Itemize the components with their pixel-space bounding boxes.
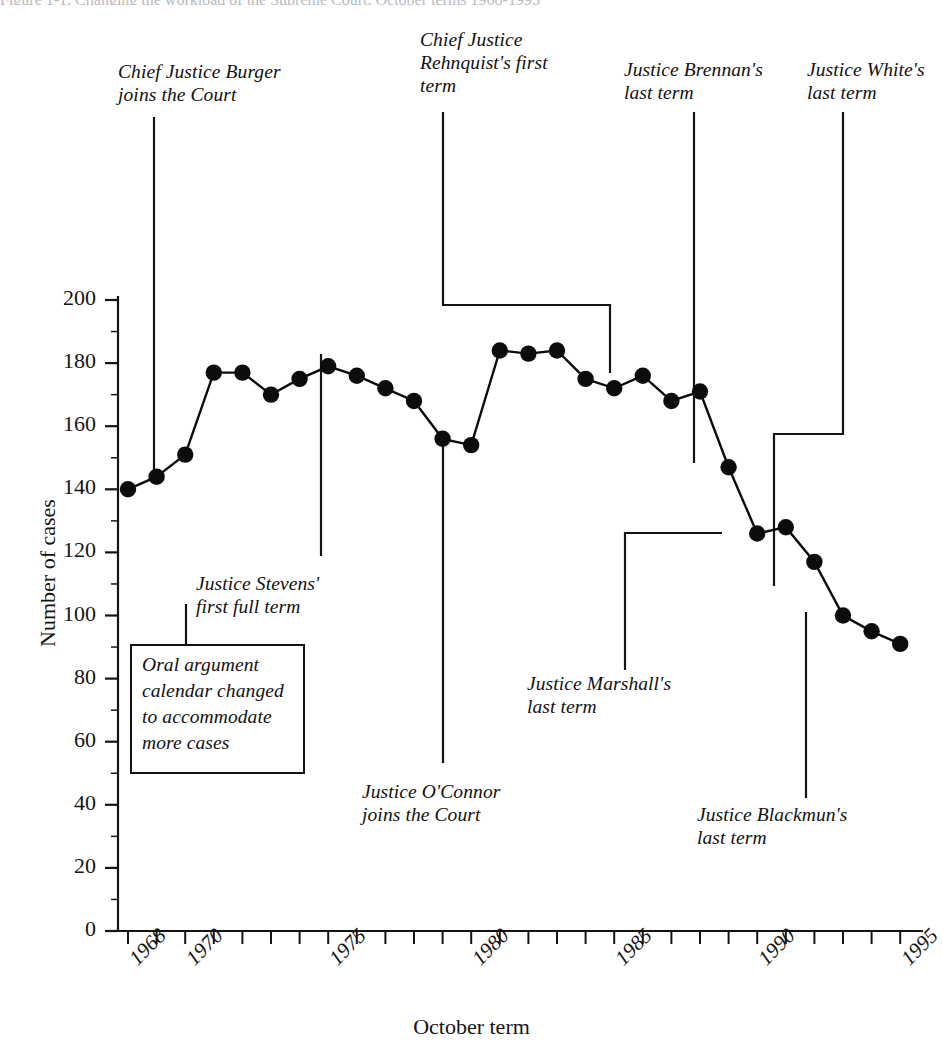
data-point: [577, 371, 593, 387]
leader-rehnquist: [443, 112, 610, 373]
callout-text: Oral argument calendar changed to accomm…: [142, 652, 307, 756]
data-point: [349, 368, 365, 384]
annotation-rehnquist: Chief Justice Rehnquist's first term: [420, 28, 600, 97]
data-point: [406, 393, 422, 409]
data-point: [291, 371, 307, 387]
y-tick-label: 200: [32, 285, 96, 311]
y-tick-label: 40: [32, 790, 96, 816]
y-tick-label: 60: [32, 727, 96, 753]
callout-box-oral-argument: Oral argument calendar changed to accomm…: [130, 644, 305, 774]
data-point: [320, 358, 336, 374]
data-point: [892, 636, 908, 652]
annotation-white: Justice White's last term: [807, 58, 943, 104]
annotation-blackmun: Justice Blackmun's last term: [697, 803, 907, 849]
annotation-oconnor: Justice O'Connor joins the Court: [362, 780, 572, 826]
y-axis-ticks: [105, 300, 118, 931]
data-point: [177, 446, 193, 462]
data-point: [778, 519, 794, 535]
data-point: [434, 431, 450, 447]
data-point: [206, 364, 222, 380]
figure-canvas: Figure 1-1. Changing the workload of the…: [0, 0, 943, 1053]
y-tick-label: 180: [32, 348, 96, 374]
y-tick-label: 0: [32, 916, 96, 942]
data-point: [692, 383, 708, 399]
data-point: [520, 345, 536, 361]
x-axis-title: October term: [0, 1014, 943, 1040]
data-point: [749, 525, 765, 541]
data-point: [606, 380, 622, 396]
y-tick-label: 160: [32, 411, 96, 437]
annotation-stevens: Justice Stevens' first full term: [196, 572, 396, 618]
data-point: [463, 437, 479, 453]
line-chart-svg: [0, 0, 943, 1053]
data-point: [120, 481, 136, 497]
annotation-burger: Chief Justice Burger joins the Court: [118, 60, 328, 106]
data-point: [863, 623, 879, 639]
leader-white: [774, 112, 843, 586]
data-point: [663, 393, 679, 409]
leader-marshall: [625, 533, 722, 670]
annotation-marshall: Justice Marshall's last term: [527, 672, 727, 718]
data-point: [720, 459, 736, 475]
data-point: [263, 386, 279, 402]
data-point: [635, 368, 651, 384]
data-point: [492, 342, 508, 358]
data-point: [549, 342, 565, 358]
data-point: [806, 554, 822, 570]
data-point: [377, 380, 393, 396]
y-tick-label: 20: [32, 853, 96, 879]
annotation-brennan: Justice Brennan's last term: [624, 58, 804, 104]
data-point: [234, 364, 250, 380]
data-point: [835, 607, 851, 623]
data-point: [148, 469, 164, 485]
y-axis-title: Number of cases: [35, 473, 61, 673]
